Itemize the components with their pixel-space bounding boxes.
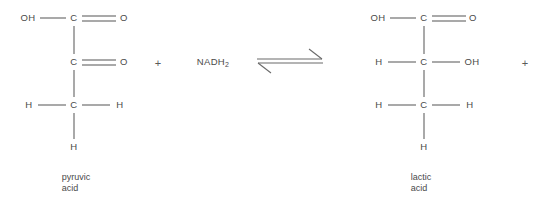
equilibrium-arrow [256, 46, 326, 80]
reactant-bond-oh-c1 [40, 18, 66, 19]
reactant-bond-c3-h-right [82, 105, 110, 106]
product-bond-h-c2 [388, 62, 416, 63]
plus-operator-left: + [155, 58, 161, 69]
product-caption-line2: acid [411, 183, 428, 193]
product-bond-c3-h-right [432, 105, 460, 106]
reactant-bond-h-c3-left [38, 105, 66, 106]
product-carbon-1-label: C [420, 13, 427, 23]
reactant-double-bond-c1-o1-upper [82, 15, 116, 16]
product-double-bond-c1-o1-lower [432, 20, 466, 21]
product-caption-line1: lactic [411, 172, 432, 182]
reactant-double-bond-c2-o2-upper [82, 59, 116, 60]
reactant-hydrogen-right-label: H [116, 100, 123, 110]
product-carbon-3-label: C [420, 100, 427, 110]
product-hydrogen-left-low-label: H [375, 100, 382, 110]
reactant-double-bond-c2-o2-lower [82, 64, 116, 65]
product-hydroxyl-top-label: OH [370, 13, 385, 23]
reactant-oxygen-2-label: O [120, 57, 128, 67]
product-bond-c2-oh [432, 62, 460, 63]
product-hydroxyl-mid-label: OH [464, 57, 479, 67]
cofactor-nadh-label: NADH2 [197, 57, 229, 68]
reactant-bond-c2-c3 [74, 70, 75, 97]
product-hydrogen-bottom-label: H [420, 142, 427, 152]
reactant-hydroxyl-top-label: OH [20, 13, 35, 23]
product-hydrogen-left-mid-label: H [375, 57, 382, 67]
cofactor-subscript: 2 [225, 61, 229, 68]
product-bond-c3-h-bottom [424, 113, 425, 139]
equilibrium-arrow-svg [256, 46, 326, 76]
equilibrium-arrow-reverse-head [258, 63, 271, 73]
cofactor-name: NADH [197, 56, 225, 67]
product-hydrogen-right-low-label: H [466, 100, 473, 110]
reactant-oxygen-1-label: O [120, 13, 128, 23]
plus-operator-right: + [522, 58, 528, 69]
reactant-bond-c1-c2 [74, 26, 75, 54]
product-caption: lacticacid [411, 172, 432, 195]
product-bond-c1-c2 [424, 26, 425, 54]
product-carbon-2-label: C [420, 57, 427, 67]
reactant-hydrogen-bottom-label: H [70, 142, 77, 152]
product-bond-oh-c1 [390, 18, 416, 19]
reactant-carbon-1-label: C [70, 13, 77, 23]
reactant-caption-line1: pyruvic [62, 172, 91, 182]
reactant-carbon-3-label: C [70, 100, 77, 110]
reactant-bond-c3-h-bottom [74, 113, 75, 139]
product-bond-h-c3-left [388, 105, 416, 106]
reaction-diagram: OH C O C O H C H H pyruvicacid + NADH2 O… [0, 0, 547, 203]
reactant-caption-line2: acid [62, 183, 79, 193]
reactant-hydrogen-left-label: H [25, 100, 32, 110]
reactant-double-bond-c1-o1-lower [82, 20, 116, 21]
product-oxygen-1-label: O [469, 13, 477, 23]
reactant-carbon-2-label: C [70, 57, 77, 67]
product-double-bond-c1-o1-upper [432, 15, 466, 16]
reactant-caption: pyruvicacid [62, 172, 91, 195]
equilibrium-arrow-forward-head [309, 49, 322, 59]
product-bond-c2-c3 [424, 70, 425, 97]
